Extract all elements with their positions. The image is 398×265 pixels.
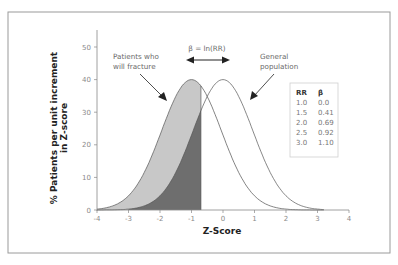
y-axis-title-line1: % Patients per unit increment: [49, 51, 59, 204]
table-cell: 0.0: [318, 99, 329, 107]
table-cell: 1.10: [318, 139, 334, 147]
x-tick-label: 2: [284, 215, 288, 223]
y-tick-label: 0: [87, 207, 91, 215]
table-header: RR: [296, 89, 307, 97]
table-cell: 0.69: [318, 119, 334, 127]
x-tick-label: -1: [188, 215, 195, 223]
x-tick-label: 3: [315, 215, 319, 223]
x-tick-label: -3: [125, 215, 132, 223]
table-cell: 2.5: [296, 129, 307, 137]
table-header: β: [318, 89, 323, 97]
table-cell: 2.0: [296, 119, 307, 127]
x-axis-title: Z-Score: [203, 226, 242, 236]
table-cell: 3.0: [296, 139, 307, 147]
y-tick-label: 10: [82, 174, 91, 182]
x-tick-label: -4: [94, 215, 102, 223]
beta-formula-label: β = ln(RR): [188, 44, 226, 53]
y-tick-label: 40: [82, 76, 91, 84]
fracture-label-line2: will fracture: [113, 62, 156, 71]
table-cell: 1.5: [296, 109, 307, 117]
fracture-label-line1: Patients who: [113, 52, 159, 61]
table-cell: 0.92: [318, 129, 334, 137]
x-tick-label: 0: [221, 215, 225, 223]
x-tick-label: 1: [252, 215, 256, 223]
general-label-line2: population: [260, 62, 298, 71]
chart-figure: -4-3-2-101234 01020304050 % Patients per…: [0, 0, 398, 265]
x-tick-label: -2: [157, 215, 164, 223]
y-tick-label: 30: [82, 109, 91, 117]
y-tick-label: 50: [82, 44, 91, 52]
table-cell: 0.41: [318, 109, 334, 117]
general-label-line1: General: [260, 52, 288, 61]
y-axis-title-line2: in Z-score: [59, 103, 69, 153]
table-cell: 1.0: [296, 99, 307, 107]
y-tick-label: 20: [82, 141, 91, 149]
x-tick-label: 4: [347, 215, 352, 223]
